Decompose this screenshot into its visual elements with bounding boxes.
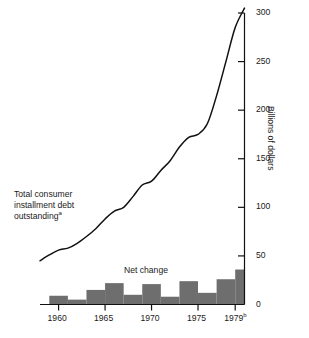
x-axis-ticks (59, 305, 236, 311)
net-change-bar (161, 297, 180, 305)
x-axis-tick-label: 1965 (94, 313, 113, 323)
y-axis-tick-label: 250 (256, 56, 270, 66)
total-debt-line (40, 8, 245, 261)
net-change-bar (105, 283, 124, 304)
y-axis-tick-label: 300 (256, 7, 270, 17)
x-axis-tick-label: 1960 (48, 313, 67, 323)
y-axis-tick-label: 50 (256, 250, 266, 260)
annotation-line: Total consumer (14, 189, 74, 200)
y-axis-tick-label: 150 (256, 153, 270, 163)
x-axis-tick-label: 1975 (187, 313, 206, 323)
net-change-bar (68, 300, 87, 305)
net-change-bar (142, 284, 161, 304)
x-axis-tick-label: 1970 (141, 313, 160, 323)
annotation-net-change: Net change (124, 265, 168, 275)
annotation-line: outstandinga (14, 211, 74, 222)
x-axis-tick-label: 1979b (224, 313, 246, 323)
chart-plot-area (0, 0, 309, 338)
net-change-bar (235, 270, 244, 305)
net-change-bar (198, 293, 217, 305)
y-axis-tick-label: 0 (256, 299, 261, 309)
net-change-bar (86, 290, 105, 305)
y-axis-tick-label: 200 (256, 104, 270, 114)
annotation-line: installment debt (14, 200, 74, 211)
net-change-bar (179, 281, 198, 304)
net-change-bar (49, 296, 68, 305)
chart-container: Total consumerinstallment debtoutstandin… (0, 0, 309, 338)
y-axis-ticks (238, 13, 245, 256)
net-change-bar (217, 279, 236, 304)
annotation-total-debt: Total consumerinstallment debtoutstandin… (14, 189, 74, 223)
net-change-bar (124, 295, 143, 305)
y-axis-tick-label: 100 (256, 201, 270, 211)
